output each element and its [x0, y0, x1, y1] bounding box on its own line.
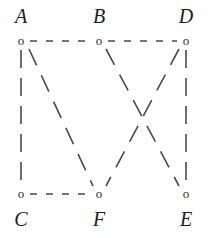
- node-label-c: C: [8, 209, 34, 229]
- node-d[interactable]: o: [179, 34, 193, 48]
- graph-diagram: oAoBoDoCoFoE: [0, 0, 210, 238]
- node-e[interactable]: o: [179, 187, 193, 201]
- edge-a-f: [29, 49, 93, 186]
- node-c[interactable]: o: [14, 187, 28, 201]
- node-label-d: D: [173, 6, 199, 26]
- node-f[interactable]: o: [92, 187, 106, 201]
- node-a[interactable]: o: [14, 34, 28, 48]
- node-label-a: A: [8, 6, 34, 26]
- node-label-f: F: [86, 209, 112, 229]
- node-label-b: B: [86, 6, 112, 26]
- node-b[interactable]: o: [92, 34, 106, 48]
- edge-layer: [0, 0, 210, 238]
- node-label-e: E: [173, 209, 199, 229]
